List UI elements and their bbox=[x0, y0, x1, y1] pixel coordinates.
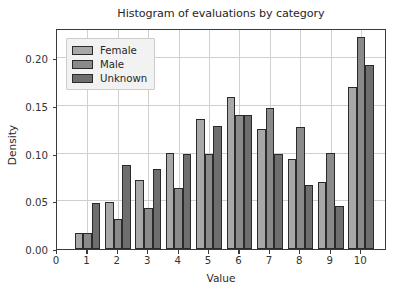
legend-item-female[interactable]: Female bbox=[72, 43, 147, 57]
legend-label-male: Male bbox=[100, 59, 124, 70]
bar bbox=[357, 37, 366, 249]
x-tick-mark bbox=[56, 250, 57, 254]
bar bbox=[122, 165, 131, 249]
bar bbox=[114, 219, 123, 249]
bar bbox=[83, 233, 92, 249]
bar bbox=[144, 208, 153, 249]
bar bbox=[75, 233, 84, 249]
x-tick-mark bbox=[86, 250, 87, 254]
bar bbox=[92, 203, 101, 249]
bar bbox=[318, 182, 327, 249]
legend-swatch-male bbox=[72, 60, 93, 69]
y-tick-mark bbox=[53, 107, 57, 108]
bar bbox=[326, 153, 335, 249]
chart-figure: Histogram of evaluations by category Fem… bbox=[0, 0, 406, 293]
bar bbox=[196, 119, 205, 249]
chart-title: Histogram of evaluations by category bbox=[56, 7, 386, 20]
y-tick-label: 0.05 bbox=[0, 197, 48, 208]
bar bbox=[183, 154, 192, 249]
bar bbox=[365, 65, 374, 249]
x-tick-label: 1 bbox=[83, 255, 89, 266]
x-tick-mark bbox=[269, 250, 270, 254]
bar bbox=[135, 180, 144, 249]
x-tick-label: 3 bbox=[144, 255, 150, 266]
bar bbox=[153, 169, 162, 249]
x-tick-mark bbox=[178, 250, 179, 254]
chart-legend: Female Male Unknown bbox=[66, 38, 155, 90]
bar bbox=[296, 127, 305, 249]
legend-swatch-unknown bbox=[72, 74, 93, 83]
y-tick-mark bbox=[53, 59, 57, 60]
x-tick-mark bbox=[330, 250, 331, 254]
y-axis-label: Density bbox=[6, 105, 18, 185]
plot-area: Female Male Unknown bbox=[56, 29, 386, 250]
y-tick-label: 0.20 bbox=[0, 54, 48, 65]
y-tick-label: 0.00 bbox=[0, 245, 48, 256]
bar bbox=[227, 97, 236, 249]
bar bbox=[244, 115, 253, 249]
x-tick-mark bbox=[208, 250, 209, 254]
bar bbox=[174, 188, 183, 249]
bar bbox=[257, 129, 266, 249]
x-tick-label: 0 bbox=[53, 255, 59, 266]
bar bbox=[335, 206, 344, 249]
x-tick-label: 7 bbox=[266, 255, 272, 266]
x-tick-label: 10 bbox=[354, 255, 367, 266]
legend-swatch-female bbox=[72, 46, 93, 55]
gridline-horizontal bbox=[57, 105, 385, 106]
bar bbox=[274, 154, 283, 249]
bar bbox=[166, 153, 175, 249]
bar bbox=[305, 185, 314, 249]
y-tick-mark bbox=[53, 202, 57, 203]
legend-item-male[interactable]: Male bbox=[72, 57, 147, 71]
x-tick-mark bbox=[238, 250, 239, 254]
x-tick-mark bbox=[299, 250, 300, 254]
x-axis-label: Value bbox=[56, 272, 386, 284]
bar bbox=[266, 108, 275, 249]
x-tick-label: 9 bbox=[326, 255, 332, 266]
legend-item-unknown[interactable]: Unknown bbox=[72, 71, 147, 85]
bar bbox=[348, 87, 357, 249]
bar bbox=[235, 115, 244, 249]
x-tick-label: 5 bbox=[205, 255, 211, 266]
legend-label-unknown: Unknown bbox=[100, 73, 147, 84]
bar bbox=[288, 159, 297, 249]
legend-label-female: Female bbox=[100, 45, 137, 56]
bar bbox=[105, 202, 114, 249]
x-tick-label: 8 bbox=[296, 255, 302, 266]
x-tick-mark bbox=[147, 250, 148, 254]
x-tick-label: 6 bbox=[235, 255, 241, 266]
x-tick-mark bbox=[117, 250, 118, 254]
y-tick-mark bbox=[53, 155, 57, 156]
x-tick-mark bbox=[360, 250, 361, 254]
x-tick-label: 4 bbox=[174, 255, 180, 266]
x-tick-label: 2 bbox=[114, 255, 120, 266]
bar bbox=[205, 154, 214, 249]
bar bbox=[213, 126, 222, 249]
